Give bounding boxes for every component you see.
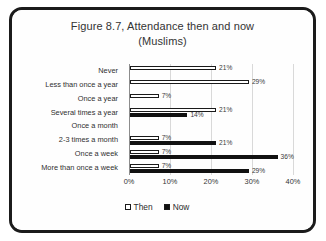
bar-value-label-now: 29% xyxy=(252,167,265,174)
bar-then[interactable] xyxy=(130,136,159,140)
category-label: Less than once a year xyxy=(12,81,118,89)
x-tick-label: 10% xyxy=(163,177,178,186)
legend-label-now: Now xyxy=(173,202,190,212)
plot-area: 21%29%7%21%14%7%21%7%36%7%29% xyxy=(129,64,293,175)
category-label: Never xyxy=(12,67,118,75)
bar-then[interactable] xyxy=(130,164,159,168)
bar-group: 29% xyxy=(129,78,293,92)
category-label: Once a week xyxy=(12,150,118,158)
bar-group: 7%21% xyxy=(129,133,293,147)
bar-group: 21% xyxy=(129,64,293,78)
x-tick-label: 0% xyxy=(124,177,135,186)
bar-then[interactable] xyxy=(130,150,159,154)
bar-group: 21%14% xyxy=(129,106,293,120)
bar-value-label-now: 21% xyxy=(219,139,232,146)
bar-value-label-then: 7% xyxy=(162,162,172,169)
figure-frame: Figure 8.7, Attendance then and now (Mus… xyxy=(9,7,316,233)
bar-group: 7%36% xyxy=(129,147,293,161)
category-axis: NeverLess than once a yearOnce a yearSev… xyxy=(14,64,122,175)
bar-value-label-then: 29% xyxy=(252,78,265,85)
category-label: Once a year xyxy=(12,95,118,103)
bar-value-label-then: 21% xyxy=(219,106,232,113)
legend-item-then[interactable]: Then xyxy=(125,202,153,212)
legend-item-now[interactable]: Now xyxy=(164,202,190,212)
legend-swatch-then-icon xyxy=(125,204,131,210)
bar-now[interactable] xyxy=(130,155,278,159)
bar-then[interactable] xyxy=(130,94,159,98)
bar-now[interactable] xyxy=(130,141,216,145)
value-axis: 0%10%20%30%40% xyxy=(129,177,309,189)
category-label: More than once a week xyxy=(12,164,118,172)
x-tick-label: 30% xyxy=(245,177,260,186)
chart-legend: Then Now xyxy=(12,202,302,212)
legend-swatch-now-icon xyxy=(164,204,170,210)
bar-value-label-then: 7% xyxy=(162,148,172,155)
bar-value-label-then: 7% xyxy=(162,134,172,141)
x-tick-label: 20% xyxy=(204,177,219,186)
category-label: 2-3 times a month xyxy=(12,136,118,144)
figure-card: Figure 8.7, Attendance then and now (Mus… xyxy=(12,10,313,230)
bar-then[interactable] xyxy=(130,66,216,70)
chart-plot-wrapper: NeverLess than once a yearOnce a yearSev… xyxy=(12,10,319,236)
category-label: Once a month xyxy=(12,122,118,130)
bar-group xyxy=(129,120,293,134)
legend-label-then: Then xyxy=(134,202,153,212)
bar-value-label-now: 14% xyxy=(190,111,203,118)
bar-now[interactable] xyxy=(130,113,187,117)
bar-value-label-then: 21% xyxy=(219,64,232,71)
bar-now[interactable] xyxy=(130,169,249,173)
bar-group: 7%29% xyxy=(129,161,293,175)
bar-group: 7% xyxy=(129,92,293,106)
bar-value-label-then: 7% xyxy=(162,92,172,99)
bar-then[interactable] xyxy=(130,80,249,84)
bar-value-label-now: 36% xyxy=(281,153,294,160)
x-tick-label: 40% xyxy=(286,177,301,186)
category-label: Several times a year xyxy=(12,109,118,117)
